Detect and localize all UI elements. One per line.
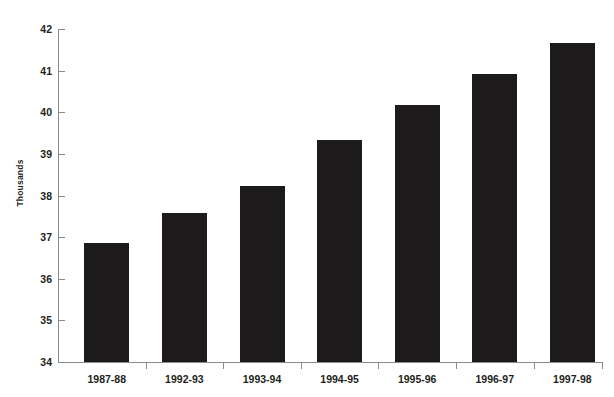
bar	[240, 186, 285, 362]
bar	[395, 105, 440, 362]
x-tick-end	[602, 362, 603, 369]
y-tick-label: 42	[26, 24, 52, 35]
y-tick-label: 36	[26, 274, 52, 285]
y-tick-37	[58, 237, 65, 238]
y-tick-label: 39	[26, 149, 52, 160]
y-tick-38	[58, 196, 65, 197]
y-tick-35	[58, 320, 65, 321]
y-tick-41	[58, 71, 65, 72]
x-tick	[146, 362, 147, 369]
plot-area	[58, 29, 603, 362]
x-tick	[456, 362, 457, 369]
y-tick-label: 37	[26, 232, 52, 243]
bar	[472, 74, 517, 362]
y-tick-39	[58, 154, 65, 155]
y-tick-42	[58, 29, 65, 30]
x-tick	[301, 362, 302, 369]
bar	[84, 243, 129, 362]
y-tick-label: 40	[26, 107, 52, 118]
y-tick-34	[58, 362, 65, 363]
bar	[550, 43, 595, 362]
y-tick-40	[58, 112, 65, 113]
y-tick-label: 38	[26, 191, 52, 202]
bar	[317, 140, 362, 362]
bar	[162, 213, 207, 362]
x-axis-line	[58, 362, 603, 363]
y-axis-title: Thousands	[15, 141, 25, 225]
x-tick	[223, 362, 224, 369]
bar-chart: Thousands 343536373839404142 1987-881992…	[0, 0, 614, 397]
y-tick-label: 41	[26, 66, 52, 77]
x-tick	[378, 362, 379, 369]
y-tick-label: 34	[26, 357, 52, 368]
y-tick-36	[58, 279, 65, 280]
x-category-label: 1997-98	[522, 374, 614, 385]
x-tick	[534, 362, 535, 369]
y-tick-label: 35	[26, 315, 52, 326]
